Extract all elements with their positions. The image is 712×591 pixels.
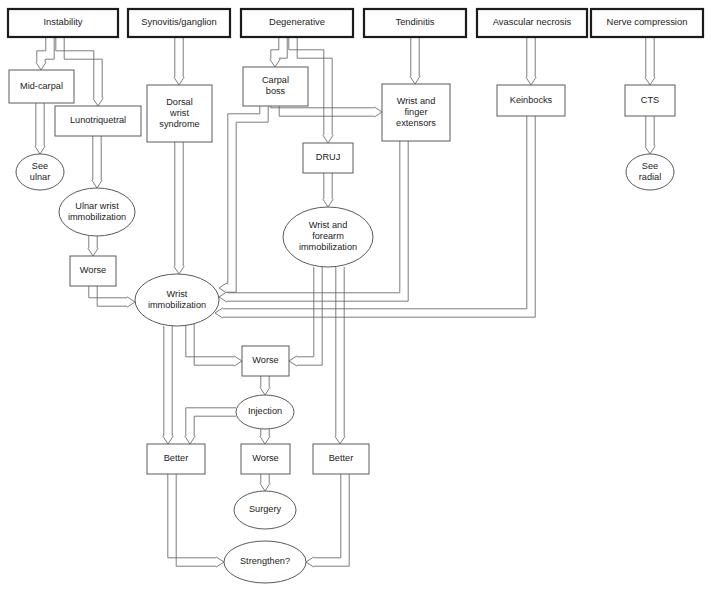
- flowchart-svg: InstabilitySynovitis/ganglionDegenerativ…: [0, 0, 712, 591]
- box-label-druj: DRUJ: [316, 152, 341, 162]
- edge-avascular-keinbocks: [526, 37, 536, 85]
- edge-carpalboss-extensors-head: [374, 107, 382, 117]
- ellipse-node-strengthen[interactable]: Strengthen?: [224, 541, 306, 583]
- ellipse-node-ulnar-immob[interactable]: Ulnar wristimmobilization: [59, 188, 135, 236]
- edge-degenerative-carpalboss-head: [270, 59, 280, 67]
- edge-wristforearm-worsemid-head: [289, 356, 297, 366]
- ellipse-label-ulnar-immob: Ulnar wristimmobilization: [68, 201, 126, 222]
- edge-injection-betterleft-head: [185, 436, 195, 444]
- box-node-worse-ulnar[interactable]: Worse: [70, 256, 116, 286]
- box-label-better-left: Better: [164, 453, 189, 463]
- edge-worsemid-injection-head: [260, 387, 270, 395]
- box-label-midcarpal: Mid-carpal: [20, 81, 63, 91]
- edge-nerve-cts-head: [645, 77, 655, 85]
- edge-betterleft-strengthen-head: [216, 557, 224, 567]
- box-label-keinbocks: Keinbocks: [510, 95, 553, 105]
- edge-nerve-cts: [645, 37, 655, 85]
- edge-degenerative-druj-head: [323, 135, 333, 143]
- edge-wristimmob-worsemid-head: [234, 356, 242, 366]
- edge-druj-wristforearm-head: [323, 199, 333, 207]
- ellipse-node-wrist-immob[interactable]: Wristimmobilization: [135, 274, 219, 326]
- header-node-tendinitis[interactable]: Tendinitis: [364, 9, 466, 37]
- edge-wristimmob-worsemid: [186, 324, 242, 366]
- edge-avascular-keinbocks-head: [526, 77, 536, 85]
- box-node-keinbocks[interactable]: Keinbocks: [497, 85, 565, 116]
- ellipse-label-strengthen: Strengthen?: [240, 556, 290, 566]
- edge-keinbocks-wristimmob: [215, 116, 535, 318]
- box-node-worse-mid[interactable]: Worse: [242, 346, 289, 376]
- box-node-worse-bottom[interactable]: Worse: [241, 444, 290, 474]
- edge-worsebottom-surgery: [260, 474, 270, 491]
- edge-injection-worsebottom-head: [260, 436, 270, 444]
- edge-lunotriquetral-ulnarimmob-head: [92, 180, 102, 188]
- flowchart-canvas: InstabilitySynovitis/ganglionDegenerativ…: [0, 0, 712, 591]
- header-node-synovitis[interactable]: Synovitis/ganglion: [128, 9, 230, 37]
- box-node-better-right[interactable]: Better: [313, 444, 369, 474]
- edge-injection-worsebottom: [260, 429, 270, 444]
- header-node-nerve[interactable]: Nerve compression: [591, 9, 703, 37]
- header-label-avascular: Avascular necrosis: [493, 16, 572, 27]
- edge-tendinitis-extensors-head: [410, 76, 420, 84]
- ellipse-node-wrist-forearm-immob[interactable]: Wrist andforearmimmobilization: [283, 207, 373, 267]
- edge-degenerative-carpalboss: [270, 37, 287, 67]
- box-node-dorsal-wrist[interactable]: Dorsalwristsyndrome: [147, 85, 212, 142]
- edge-synovitis-dorsal: [174, 37, 184, 85]
- header-label-degenerative: Degenerative: [269, 16, 325, 27]
- edge-worseulnar-wristimmob: [89, 286, 135, 307]
- edge-instability-midcarpal-head: [36, 62, 46, 70]
- nodes-layer: InstabilitySynovitis/ganglionDegenerativ…: [8, 9, 703, 583]
- box-node-cts[interactable]: CTS: [625, 85, 675, 116]
- ellipse-label-see-radial: Seeradial: [639, 161, 661, 182]
- box-label-carpal-boss: Carpalboss: [262, 75, 289, 96]
- header-node-instability[interactable]: Instability: [8, 9, 118, 37]
- edge-wristimmob-betterleft-head: [163, 436, 173, 444]
- edge-extensors-wristimmob-head: [219, 292, 227, 302]
- edge-wristforearm-betterright-head: [335, 436, 345, 444]
- edge-carpalboss-wristimmob-head: [219, 283, 227, 293]
- edge-synovitis-dorsal-head: [174, 77, 184, 85]
- edge-carpalboss-extensors: [271, 106, 382, 117]
- ellipse-label-surgery: Surgery: [249, 504, 282, 514]
- edge-tendinitis-extensors: [410, 37, 420, 84]
- header-node-degenerative[interactable]: Degenerative: [241, 9, 353, 37]
- header-label-instability: Instability: [43, 16, 82, 27]
- edge-cts-seeradial: [645, 116, 655, 154]
- edge-betterright-strengthen-head: [306, 557, 314, 567]
- box-label-worse-mid: Worse: [252, 355, 278, 365]
- edge-cts-seeradial-head: [645, 146, 655, 154]
- edge-dorsal-wristimmob: [174, 142, 184, 274]
- header-label-nerve: Nerve compression: [607, 16, 688, 27]
- box-label-worse-ulnar: Worse: [80, 265, 106, 275]
- edge-worseulnar-wristimmob-head: [127, 297, 135, 307]
- edge-worsemid-injection: [260, 376, 270, 395]
- box-node-better-left[interactable]: Better: [147, 444, 205, 474]
- edge-betterright-strengthen: [306, 474, 349, 567]
- box-node-extensors[interactable]: Wrist andfingerextensors: [382, 84, 450, 141]
- edge-druj-wristforearm: [323, 173, 333, 207]
- box-label-lunotriquetral: Lunotriquetral: [70, 115, 126, 125]
- ellipse-node-see-radial[interactable]: Seeradial: [626, 154, 674, 190]
- edge-dorsal-wristimmob-head: [174, 266, 184, 274]
- ellipse-label-see-ulnar: Seeulnar: [30, 161, 50, 182]
- box-node-druj[interactable]: DRUJ: [303, 143, 353, 173]
- edge-betterleft-strengthen: [168, 474, 224, 567]
- box-label-cts: CTS: [641, 95, 659, 105]
- box-node-midcarpal[interactable]: Mid-carpal: [9, 70, 74, 103]
- edge-ulnarimmob-worse: [88, 236, 98, 256]
- header-node-avascular[interactable]: Avascular necrosis: [477, 9, 587, 37]
- edge-midcarpal-seeulnar: [35, 103, 45, 154]
- ellipse-node-see-ulnar[interactable]: Seeulnar: [16, 154, 64, 190]
- ellipse-node-injection[interactable]: Injection: [236, 395, 294, 429]
- edge-wristforearm-betterright: [335, 267, 345, 444]
- edge-ulnarimmob-worse-head: [88, 248, 98, 256]
- box-label-worse-bottom: Worse: [252, 453, 278, 463]
- box-node-lunotriquetral[interactable]: Lunotriquetral: [55, 106, 141, 136]
- box-label-better-right: Better: [329, 453, 354, 463]
- ellipse-node-surgery[interactable]: Surgery: [234, 491, 296, 529]
- ellipse-label-injection: Injection: [248, 406, 282, 416]
- edge-instability-midcarpal: [36, 37, 54, 70]
- edge-wristforearm-worsemid: [289, 267, 322, 366]
- box-node-carpal-boss[interactable]: Carpalboss: [243, 67, 308, 106]
- edge-carpalboss-wristimmob: [219, 106, 268, 293]
- header-label-synovitis: Synovitis/ganglion: [141, 16, 217, 27]
